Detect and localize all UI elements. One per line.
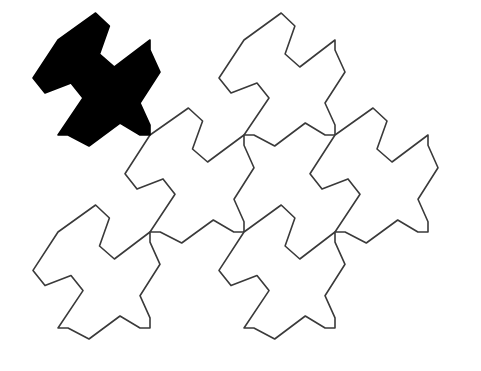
tessellation-figure bbox=[0, 0, 481, 371]
tile bbox=[219, 13, 345, 146]
tile bbox=[33, 205, 160, 339]
highlighted-tile bbox=[33, 13, 160, 146]
tile-layer bbox=[33, 13, 438, 339]
